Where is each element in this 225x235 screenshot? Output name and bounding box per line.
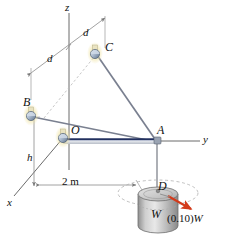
cable-C-A [97, 55, 157, 142]
force-prefix: (0.10) [167, 212, 194, 224]
pulley-O [55, 126, 71, 148]
pulley-C [87, 42, 103, 64]
figure-canvas [0, 0, 225, 235]
x-axis-label: x [7, 197, 12, 208]
point-label-C: C [105, 41, 113, 53]
dimension-label-span: 2 m [62, 176, 79, 187]
x-axis [14, 138, 63, 196]
force-symbol: W [194, 212, 203, 224]
point-label-B: B [23, 96, 30, 108]
beam-OA [63, 139, 158, 145]
point-label-A: A [157, 124, 164, 136]
y-axis-label: y [203, 134, 208, 145]
weight-label: W [151, 208, 161, 220]
applied-force-label: (0.10)W [167, 213, 203, 224]
point-label-O: O [71, 124, 80, 136]
z-axis-label: z [65, 2, 69, 13]
statics-figure: z y x d d h 2 m C B O A D W (0.10)W [0, 0, 225, 235]
dimension-label-h: h [27, 152, 33, 163]
point-label-D: D [158, 180, 167, 192]
cable-group [33, 55, 157, 191]
d-dimension-group [31, 16, 105, 118]
dimension-label-d-upper: d [83, 27, 89, 38]
joint-A [154, 137, 161, 144]
dimension-label-d-lower: d [47, 53, 53, 64]
cable-B-A [33, 117, 157, 142]
